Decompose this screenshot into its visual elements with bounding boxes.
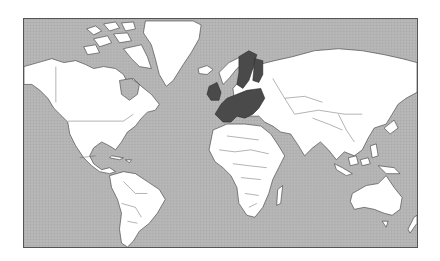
world-map: World map with European Union member sta… [23, 18, 418, 248]
